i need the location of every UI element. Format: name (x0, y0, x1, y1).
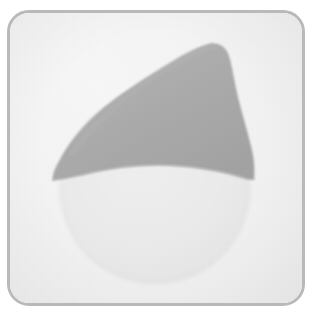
rounded-rectangle-frame (7, 10, 305, 306)
gray-cap-group (53, 43, 255, 180)
plate-surface (10, 13, 302, 303)
gray-cap (53, 43, 255, 180)
specimen-drawing (10, 13, 302, 303)
specimen-thumbnail-figure (0, 0, 315, 319)
